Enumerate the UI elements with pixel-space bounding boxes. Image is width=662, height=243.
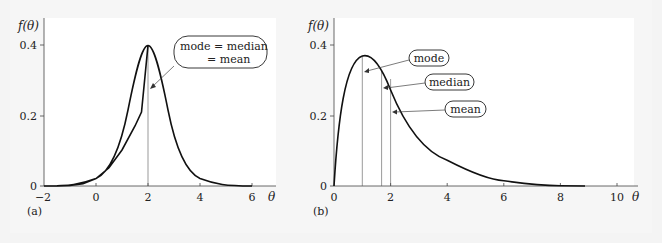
xlabel-b: θ	[632, 190, 640, 204]
xtick-b-10: 10	[610, 191, 624, 204]
xlabel-a: θ	[268, 190, 276, 204]
xtick-b-0: 0	[331, 191, 338, 204]
ytick-a-0.2: 0.2	[20, 110, 38, 123]
ytick-b-0: 0	[320, 180, 327, 193]
xtick-b-4: 4	[444, 191, 451, 204]
plot-area-b	[334, 18, 634, 186]
xtick-a-0: 0	[93, 191, 100, 204]
annotation-a-line1: mode = median	[180, 40, 268, 53]
annotation-mean: mean	[450, 103, 481, 116]
annotation-a-line2: = mean	[207, 53, 250, 66]
ylabel-b: f(θ)	[307, 19, 329, 33]
xtick-a-2: 2	[145, 191, 152, 204]
chart-a: 0.4 0.2 0 f(θ) −2 0 2 4 6 θ (a) mode = m…	[17, 18, 276, 218]
annotation-mode: mode	[414, 52, 445, 65]
ylabel-a: f(θ)	[17, 19, 39, 33]
ytick-b-0.2: 0.2	[310, 110, 328, 123]
panel-label-a: (a)	[27, 205, 42, 218]
xtick-a-neg2: −2	[35, 191, 51, 204]
xtick-a-6: 6	[249, 191, 256, 204]
xtick-b-2: 2	[387, 191, 394, 204]
ytick-b-0.4: 0.4	[310, 39, 328, 52]
annotation-median: median	[429, 76, 470, 89]
panel-label-b: (b)	[313, 205, 329, 218]
charts-canvas: 0.4 0.2 0 f(θ) −2 0 2 4 6 θ (a) mode = m…	[0, 0, 662, 243]
xtick-a-4: 4	[197, 191, 204, 204]
chart-b: 0.4 0.2 0 f(θ) 0 2 4 6 8 10 θ (b) mode m…	[307, 18, 640, 218]
xtick-b-8: 8	[557, 191, 564, 204]
ytick-a-0.4: 0.4	[20, 39, 38, 52]
xtick-b-6: 6	[500, 191, 507, 204]
